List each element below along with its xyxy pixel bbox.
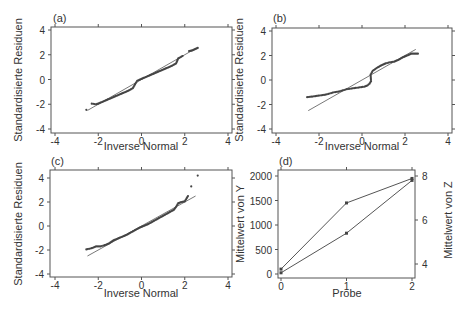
x-tick-label: -4 <box>51 136 60 147</box>
data-point <box>197 47 199 49</box>
x-tick-label: 2 <box>402 136 408 147</box>
y-tick-label-right: 6 <box>422 215 428 226</box>
y-tick-label: 2 <box>260 51 266 62</box>
data-point <box>197 175 199 177</box>
y-tick-label-left: 2000 <box>250 171 273 182</box>
x-tick-label: 0 <box>359 136 365 147</box>
x-tick-label: -2 <box>315 136 324 147</box>
panel-a-label: (a) <box>53 12 66 24</box>
series-line <box>281 178 412 269</box>
x-tick-label: -2 <box>94 136 103 147</box>
data-point <box>190 185 192 187</box>
series-line <box>281 180 412 272</box>
figure: (a) Standardisierte Residuen Inverse Nor… <box>0 0 468 313</box>
y-tick-label: -2 <box>35 245 44 256</box>
panel-d-ylabel-left: Mittelwert von Y <box>234 184 246 263</box>
panel-a: (a) Standardisierte Residuen Inverse Nor… <box>12 12 235 152</box>
y-tick-label: 4 <box>39 25 45 36</box>
x-tick-label: -4 <box>272 136 281 147</box>
data-point <box>187 195 189 197</box>
panel-d-label: (d) <box>279 155 292 167</box>
x-tick-label: -2 <box>94 280 103 291</box>
series-marker <box>411 179 414 182</box>
panel-b-plot: -4-2024-4-2024 <box>257 25 455 147</box>
y-tick-label: -4 <box>257 124 266 135</box>
x-tick-label: 4 <box>445 136 451 147</box>
y-tick-label-right: 4 <box>422 259 428 270</box>
panel-d-ylabel-right: Mittelwert von Z <box>442 181 454 259</box>
y-tick-label-left: 0 <box>266 269 272 280</box>
y-tick-label-left: 500 <box>255 245 272 256</box>
y-tick-label-left: 1500 <box>250 196 273 207</box>
x-tick-label: 0 <box>139 136 145 147</box>
series-marker <box>280 271 283 274</box>
data-point <box>417 53 419 55</box>
x-tick-label: 4 <box>225 136 231 147</box>
panel-b-label: (b) <box>273 12 286 24</box>
y-tick-label: 4 <box>260 26 266 37</box>
x-tick-label: 1 <box>344 281 350 292</box>
panel-d: (d) Mittelwert von Y Mittelwert von Z Pr… <box>234 155 454 299</box>
data-point <box>85 109 87 111</box>
y-tick-label-right: 8 <box>422 171 428 182</box>
panel-c: (c) Standardisierte Residuen Inverse Nor… <box>12 155 235 299</box>
x-tick-label: 2 <box>182 136 188 147</box>
y-tick-label: 0 <box>39 75 45 86</box>
panel-c-ylabel: Standardisierte Residuen <box>12 162 24 286</box>
y-tick-label: 0 <box>38 221 44 232</box>
panel-d-plot: 0120500100015002000468 <box>250 167 428 292</box>
x-tick-label: -4 <box>51 280 60 291</box>
y-tick-label: -4 <box>36 124 45 135</box>
data-point <box>181 55 183 57</box>
y-tick-label: 2 <box>38 197 44 208</box>
series-marker <box>280 268 283 271</box>
panel-b: (b) Standardisierte Residuen Inverse Nor… <box>233 12 455 152</box>
y-tick-label: -2 <box>257 100 266 111</box>
panel-a-plot: -4-2024-4-2024 <box>36 24 235 147</box>
x-tick-label: 0 <box>278 281 284 292</box>
y-tick-label: 2 <box>39 50 45 61</box>
x-tick-label: 2 <box>409 281 415 292</box>
y-tick-label: 4 <box>38 173 44 184</box>
panel-a-ylabel: Standardisierte Residuen <box>12 18 24 142</box>
plot-frame <box>50 170 232 277</box>
y-tick-label: -2 <box>36 99 45 110</box>
series-marker <box>345 232 348 235</box>
y-tick-label: -4 <box>35 269 44 280</box>
series-marker <box>345 201 348 204</box>
x-tick-label: 0 <box>139 280 145 291</box>
panel-c-label: (c) <box>51 155 64 167</box>
x-tick-label: 2 <box>182 280 188 291</box>
figure-canvas: (a) Standardisierte Residuen Inverse Nor… <box>0 0 468 313</box>
panel-b-ylabel: Standardisierte Residuen <box>233 18 245 142</box>
x-tick-label: 4 <box>225 280 231 291</box>
plot-frame <box>51 27 232 133</box>
plot-frame <box>272 28 452 133</box>
panel-c-plot: -4-2024-4-2024 <box>35 167 235 291</box>
y-tick-label: 0 <box>260 75 266 86</box>
y-tick-label-left: 1000 <box>250 220 273 231</box>
